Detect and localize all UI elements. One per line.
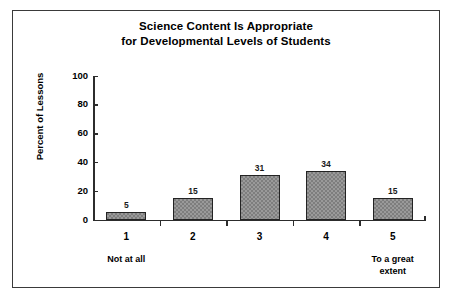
y-tick-20: 20 bbox=[93, 191, 98, 193]
y-tick-label: 20 bbox=[77, 185, 88, 196]
bar-category-3[interactable]: 31 bbox=[240, 175, 280, 220]
y-axis-line bbox=[93, 77, 95, 221]
x-category-label-2: 2 bbox=[190, 231, 196, 242]
x-annotation-line-2: extent bbox=[379, 266, 406, 276]
chart-title-line-2: for Developmental Levels of Students bbox=[13, 34, 439, 49]
y-tick-label: 100 bbox=[72, 70, 88, 81]
chart-frame: Science Content Is Appropriate for Devel… bbox=[12, 10, 440, 288]
bar-value-label: 15 bbox=[188, 186, 197, 196]
y-tick-mark bbox=[93, 133, 98, 135]
y-tick-80: 80 bbox=[93, 104, 98, 106]
y-tick-label: 60 bbox=[77, 127, 88, 138]
y-tick-100: 100 bbox=[93, 76, 98, 78]
y-tick-label: 0 bbox=[83, 214, 88, 225]
plot-area: 0 20 40 60 80 100 5 1 bbox=[93, 77, 426, 221]
bar-category-5[interactable]: 15 bbox=[373, 198, 413, 220]
x-category-label-3: 3 bbox=[257, 231, 263, 242]
x-annotation-line: Not at all bbox=[107, 254, 145, 264]
y-tick-mark bbox=[93, 104, 98, 106]
bar-category-2[interactable]: 15 bbox=[173, 198, 213, 220]
y-tick-label: 40 bbox=[77, 156, 88, 167]
bar-category-4[interactable]: 34 bbox=[306, 171, 346, 220]
x-annotation-to-a-great-extent: To a great extent bbox=[372, 254, 414, 277]
x-axis-category-labels: 1 2 3 4 5 Not at all To a great extent bbox=[93, 221, 426, 281]
y-axis-title: Percent of Lessons bbox=[34, 57, 45, 177]
x-category-label-5: 5 bbox=[390, 231, 396, 242]
y-tick-mark bbox=[93, 191, 98, 193]
x-category-label-1: 1 bbox=[124, 231, 130, 242]
bar-value-label: 34 bbox=[321, 159, 330, 169]
chart-title: Science Content Is Appropriate for Devel… bbox=[13, 19, 439, 49]
bar-value-label: 5 bbox=[124, 200, 129, 210]
y-tick-label: 80 bbox=[77, 98, 88, 109]
y-tick-40: 40 bbox=[93, 162, 98, 164]
bar-value-label: 31 bbox=[255, 163, 264, 173]
y-tick-mark bbox=[93, 162, 98, 164]
chart-title-line-1: Science Content Is Appropriate bbox=[13, 19, 439, 34]
x-annotation-line-1: To a great bbox=[372, 254, 414, 264]
bar-value-label: 15 bbox=[388, 186, 397, 196]
bar-category-1[interactable]: 5 bbox=[106, 212, 146, 219]
y-tick-mark bbox=[93, 76, 98, 78]
x-category-label-4: 4 bbox=[323, 231, 329, 242]
x-annotation-not-at-all: Not at all bbox=[107, 254, 145, 266]
y-tick-60: 60 bbox=[93, 133, 98, 135]
